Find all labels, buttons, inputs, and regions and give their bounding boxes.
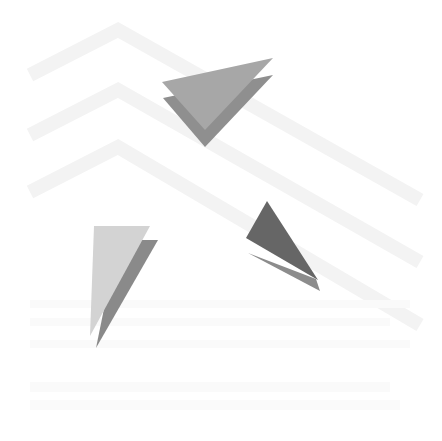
abstract-artwork bbox=[0, 0, 442, 441]
faint-bottom-texture bbox=[30, 300, 410, 410]
faint-line bbox=[30, 400, 400, 410]
faint-line bbox=[30, 300, 410, 308]
faint-line bbox=[30, 318, 390, 326]
faint-line bbox=[30, 382, 390, 392]
faint-line bbox=[30, 340, 410, 348]
